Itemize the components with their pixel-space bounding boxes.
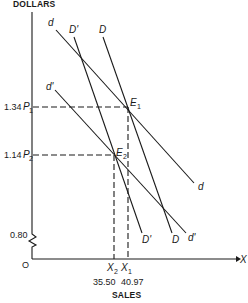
curve-D (103, 37, 172, 233)
quantity-1-symbol: X (120, 262, 128, 273)
quantity-1-value: 40.97 (121, 277, 144, 287)
y-axis (29, 12, 36, 259)
quantity-1-sub: 1 (128, 268, 132, 275)
quantity-2-value: 35.50 (93, 277, 116, 287)
equilibrium-2-symbol: E (116, 147, 123, 158)
curve-D-top-label: D (99, 24, 106, 35)
curve-d-prime-top-label: d' (46, 81, 55, 92)
curve-d (56, 30, 194, 183)
price-1-value: 1.34 (4, 102, 22, 112)
curve-D-prime-bottom-label: D' (142, 234, 152, 245)
y-axis-label: DOLLARS (13, 0, 56, 9)
curve-D-bottom-label: D (172, 234, 179, 245)
origin-label: O (22, 260, 29, 270)
quantity-2-symbol: X (106, 262, 114, 273)
price-2-value: 1.14 (4, 150, 22, 160)
x-axis-arrow-label: X (239, 254, 247, 265)
curve-d-prime-bottom-label: d' (188, 232, 197, 243)
x-axis-label: SALES (112, 290, 141, 300)
y-break-value: 0.80 (10, 230, 28, 240)
curve-d-top-label: d (48, 17, 54, 28)
curve-D-prime-top-label: D' (69, 24, 79, 35)
equilibrium-1-sub: 1 (137, 103, 141, 110)
curve-d-prime (55, 90, 186, 233)
demand-diagram: DOLLARS X O 0.80 1.34 P 1 1.14 P 2 d D' … (0, 0, 248, 303)
curve-D-prime (74, 37, 142, 233)
equilibrium-2-sub: 2 (123, 153, 127, 160)
equilibrium-1-symbol: E (130, 97, 137, 108)
price-2-sub: 2 (29, 155, 33, 162)
curve-d-bottom-label: d (198, 181, 204, 192)
quantity-2-sub: 2 (114, 268, 118, 275)
price-1-sub: 1 (29, 107, 33, 114)
